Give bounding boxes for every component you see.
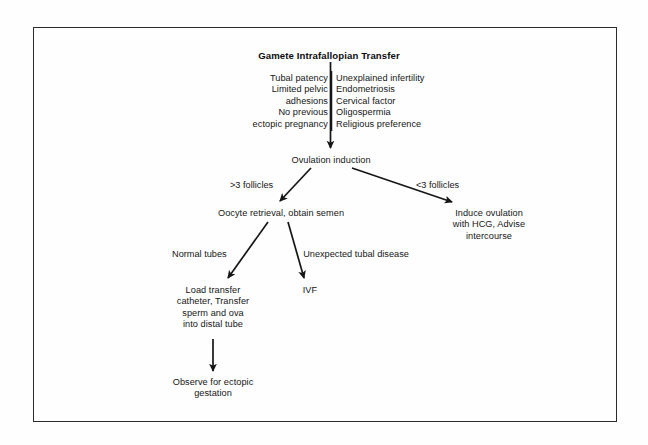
node-ovulation-induction: Ovulation induction (246, 155, 416, 166)
node-load-transfer: Load transfer catheter, Transfer sperm a… (148, 285, 278, 331)
edge-label-less-than-three-follicles: <3 follicles (416, 180, 459, 191)
page-title: Gamete Intrafallopian Transfer (258, 50, 400, 61)
edge-label-more-than-three-follicles: >3 follicles (230, 180, 273, 191)
edge-label-normal-tubes: Normal tubes (172, 249, 227, 260)
indications-left-column: Tubal patency Limited pelvic adhesions N… (188, 73, 328, 130)
node-observe-ectopic: Observe for ectopic gestation (138, 377, 288, 400)
node-oocyte-retrieval: Oocyte retrieval, obtain semen (171, 208, 391, 219)
node-ivf: IVF (285, 285, 335, 296)
edge-label-unexpected-tubal-disease: Unexpected tubal disease (303, 249, 409, 260)
indications-right-column: Unexplained infertility Endometriosis Ce… (336, 73, 496, 130)
node-induce-ovulation: Induce ovulation with HCG, Advise interc… (429, 208, 549, 242)
figure-page: Gamete Intrafallopian Transfer Tubal pat… (0, 0, 648, 445)
